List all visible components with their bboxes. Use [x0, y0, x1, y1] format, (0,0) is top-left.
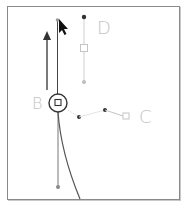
anchor-point-b[interactable] [55, 100, 61, 106]
label-d: D [97, 20, 111, 36]
handle-dot-d-top[interactable] [82, 15, 86, 19]
handle-dot-b-up[interactable] [56, 18, 60, 22]
handle-dot-b-down[interactable] [56, 185, 60, 189]
bezier-curve-segment[interactable] [58, 112, 80, 199]
label-b: B [32, 96, 42, 112]
anchor-point-c[interactable] [123, 113, 129, 119]
handle-line-c [105, 110, 123, 116]
cursor-pointer-icon [59, 19, 68, 35]
label-c: C [139, 109, 152, 125]
arrow-up-icon [43, 31, 51, 40]
handle-line-c-mid [79, 110, 105, 117]
handle-dot-d-bottom[interactable] [82, 80, 86, 84]
bezier-diagram [0, 0, 186, 210]
anchor-point-d[interactable] [81, 45, 88, 52]
